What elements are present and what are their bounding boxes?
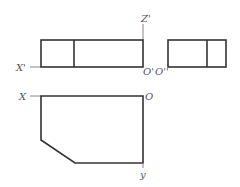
side-view-outline [168, 40, 226, 67]
top-view [30, 96, 143, 168]
side-view [168, 40, 226, 67]
label-o-double-prime: O'' [155, 66, 169, 77]
front-view-outline [41, 40, 143, 67]
label-y: y [139, 169, 146, 180]
label-z-prime: Z' [140, 13, 151, 24]
projection-diagram: Z' X' O' O'' X O y [0, 0, 240, 187]
label-o-prime: O' [143, 66, 154, 77]
top-view-outline [41, 96, 143, 163]
label-x-prime: X' [15, 62, 26, 73]
label-x: X [18, 91, 27, 102]
label-o: O [145, 91, 153, 102]
front-view [30, 24, 143, 67]
